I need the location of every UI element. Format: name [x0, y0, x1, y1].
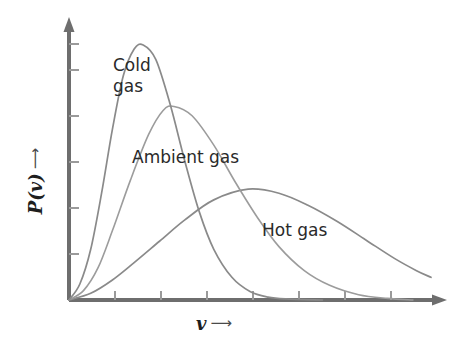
annotation-hot-gas: Hot gas	[262, 220, 327, 241]
chart-figure: Coldgas Ambient gas Hot gas P(v) ⟶ v ⟶	[0, 0, 466, 353]
x-axis-arrowhead	[432, 295, 447, 306]
annotation-ambient-gas: Ambient gas	[132, 147, 239, 168]
y-axis-label-arrow-icon: ⟶	[28, 148, 43, 170]
curve-ambient-gas	[69, 106, 413, 300]
annotation-cold-gas-line1: Cold	[113, 55, 151, 75]
y-axis-arrowhead	[64, 17, 75, 32]
x-axis-label-text: v	[196, 313, 206, 334]
x-axis-label-arrow-icon: ⟶	[210, 316, 232, 331]
y-axis-label: P(v) ⟶	[21, 126, 49, 236]
annotation-cold-gas-line2: gas	[113, 76, 143, 96]
y-axis-label-text: P(v)	[25, 173, 46, 214]
speed-distribution-plot	[0, 0, 466, 353]
annotation-cold-gas: Coldgas	[113, 55, 151, 97]
x-axis-label: v ⟶	[196, 313, 232, 334]
curve-cold-gas	[69, 44, 322, 300]
